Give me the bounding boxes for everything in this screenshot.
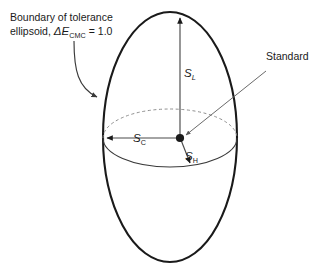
- boundary-leader-arrow: [74, 41, 97, 97]
- axis-label-sc: SC: [133, 127, 146, 147]
- boundary-caption: Boundary of tolerance ellipsoid, ΔECMC =…: [10, 11, 113, 39]
- sc-subscript: C: [141, 138, 146, 147]
- delta-e-subscript: CMC: [69, 31, 86, 40]
- delta-e-symbol: ΔE: [54, 25, 69, 37]
- sh-symbol: S: [185, 150, 193, 162]
- sh-subscript: H: [193, 156, 198, 165]
- figure-canvas: [0, 0, 323, 277]
- boundary-caption-prefix: ellipsoid,: [10, 25, 54, 37]
- main-ellipse: [103, 12, 237, 262]
- standard-leader-arrow: [186, 71, 266, 135]
- boundary-caption-line1: Boundary of tolerance: [10, 11, 113, 23]
- boundary-caption-line2: ellipsoid, ΔECMC = 1.0: [10, 24, 113, 39]
- axis-label-sh: SH: [185, 145, 198, 165]
- standard-label: Standard: [266, 50, 309, 63]
- tolerance-ellipsoid-figure: Boundary of tolerance ellipsoid, ΔECMC =…: [0, 0, 323, 277]
- centre-point-standard: [176, 134, 184, 142]
- delta-e-value: = 1.0: [86, 25, 113, 37]
- axis-label-sl: SL: [184, 62, 196, 82]
- sl-symbol: S: [184, 67, 192, 79]
- sl-subscript: L: [192, 73, 196, 82]
- sc-symbol: S: [133, 132, 141, 144]
- equator-disc-back-arc: [103, 109, 237, 138]
- equator-disc-front-arc: [103, 138, 237, 167]
